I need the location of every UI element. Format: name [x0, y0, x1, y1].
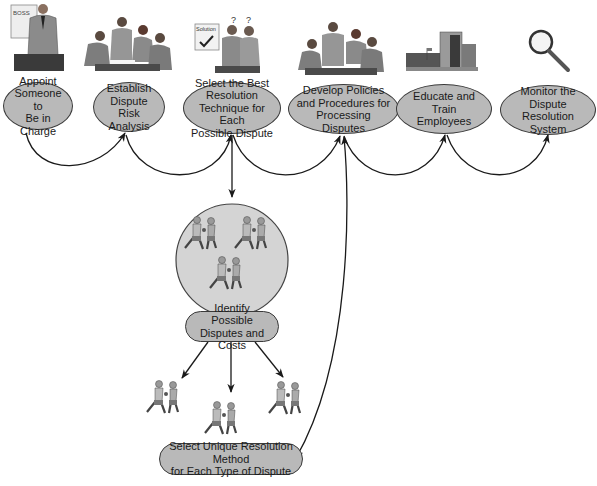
svg-text:Solution: Solution	[196, 26, 216, 32]
node-line: Select the Best	[190, 77, 274, 90]
node-line: Disputes and Costs	[192, 327, 272, 352]
step-identify-disputes: Identify Possible Disputes and Costs	[185, 311, 279, 342]
svg-text:?: ?	[231, 15, 236, 25]
node-line: Select Unique Resolution Method	[166, 440, 296, 465]
step-select-best-technique: Select the Best Resolution Technique for…	[183, 82, 281, 134]
node-line: Technique for Each	[190, 102, 274, 127]
diagram-canvas: BOSS Solution ? ?	[0, 0, 597, 486]
node-line: Processing Disputes	[295, 109, 392, 134]
step-develop-policies: Develop Policies and Procedures for Proc…	[288, 84, 399, 134]
node-line: Analysis	[100, 120, 158, 133]
edge-n5-n6	[447, 135, 548, 175]
node-line: Possible Dispute	[190, 127, 274, 140]
boxers-icon	[147, 381, 178, 414]
edge-n3-n4	[233, 135, 340, 175]
edge-n1-n2	[26, 133, 125, 166]
node-line: Monitor the Dispute	[507, 85, 589, 110]
node-line: Resolution	[190, 89, 274, 102]
edge-n2-n3	[126, 135, 231, 175]
magnifying-glass-icon	[530, 31, 568, 70]
svg-text:?: ?	[246, 15, 251, 25]
boxers-icon	[269, 382, 300, 415]
node-line: and Procedures for	[295, 97, 392, 110]
boxers-group-icon	[176, 204, 288, 316]
step-select-unique-method: Select Unique Resolution Method for Each…	[159, 443, 303, 475]
solution-board-icon: Solution ? ?	[195, 15, 260, 73]
node-line: Identify Possible	[192, 302, 272, 327]
boss-on-phone-icon: BOSS	[11, 4, 64, 71]
node-line: Be in Charge	[10, 112, 66, 137]
team-meeting-icon	[84, 17, 172, 71]
node-line: Establish	[100, 82, 158, 95]
step-monitor-system: Monitor the Dispute Resolution System	[500, 85, 596, 135]
edge-n4-n5	[344, 135, 445, 175]
node-line: Train Employees	[403, 103, 485, 128]
step-establish-risk-analysis: Establish Dispute Risk Analysis	[93, 82, 165, 132]
node-line: for Each Type of Dispute	[166, 465, 296, 478]
node-line: Educate and	[403, 90, 485, 103]
node-line: Someone to	[10, 87, 66, 112]
node-line: Appoint	[10, 75, 66, 88]
node-line: Dispute Risk	[100, 95, 158, 120]
step-appoint-someone: Appoint Someone to Be in Charge	[3, 82, 73, 130]
edge-n4-n8	[296, 137, 347, 458]
building-icon	[406, 32, 478, 71]
node-line: Develop Policies	[295, 84, 392, 97]
node-line: Resolution System	[507, 110, 589, 135]
svg-text:BOSS: BOSS	[13, 10, 30, 16]
step-educate-train: Educate and Train Employees	[396, 84, 492, 134]
team-meeting-icon	[298, 22, 384, 75]
boxers-icon	[205, 402, 236, 435]
